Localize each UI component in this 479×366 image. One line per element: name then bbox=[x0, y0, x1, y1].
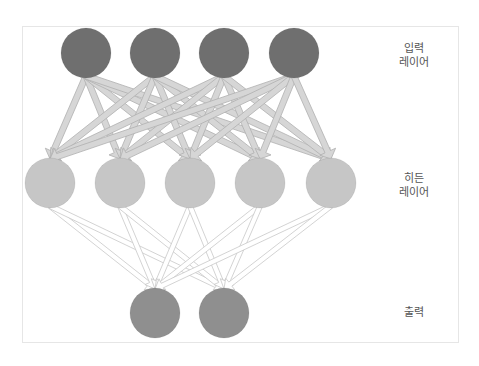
input-layer-label: 입력 레이어 bbox=[384, 42, 444, 70]
input-node bbox=[199, 28, 249, 78]
input-node bbox=[130, 28, 180, 78]
output-node bbox=[130, 288, 180, 338]
input-layer-label-line1: 입력 bbox=[384, 42, 444, 56]
hidden-node bbox=[25, 158, 75, 208]
input-node bbox=[61, 28, 111, 78]
hidden-output-connections bbox=[48, 204, 332, 293]
hidden-node bbox=[165, 158, 215, 208]
hidden-layer-label-line1: 히든 bbox=[384, 172, 444, 186]
output-layer-label: 출력 bbox=[384, 306, 444, 320]
input-hidden-connections bbox=[45, 73, 335, 164]
hidden-node bbox=[95, 158, 145, 208]
output-layer-label-line1: 출력 bbox=[384, 306, 444, 320]
input-node bbox=[269, 28, 319, 78]
hidden-layer-label: 히든 레이어 bbox=[384, 172, 444, 200]
output-node bbox=[199, 288, 249, 338]
hidden-node bbox=[235, 158, 285, 208]
network-nodes bbox=[25, 28, 356, 338]
input-layer-label-line2: 레이어 bbox=[384, 56, 444, 70]
hidden-layer-label-line2: 레이어 bbox=[384, 186, 444, 200]
hidden-node bbox=[306, 158, 356, 208]
